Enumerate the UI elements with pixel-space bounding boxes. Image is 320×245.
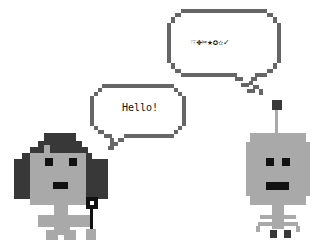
girl-character — [0, 0, 110, 245]
left-foot — [270, 230, 277, 238]
right-claw — [296, 226, 300, 232]
robot-speech-text: ☞✥✂★✪✫✓ — [191, 37, 229, 47]
girl-speech-text: Hello! — [122, 102, 158, 113]
mouth — [53, 182, 68, 189]
right-eye — [282, 158, 290, 166]
face — [30, 153, 86, 205]
left-claw — [256, 226, 260, 232]
right-foot — [284, 230, 291, 238]
robot-character — [240, 0, 320, 245]
left-eye — [266, 158, 274, 166]
hand — [86, 229, 96, 240]
right-arm — [284, 215, 296, 219]
left-foot — [46, 230, 58, 240]
left-arm — [260, 215, 272, 219]
right-foot — [64, 230, 76, 240]
left-eye — [45, 158, 53, 166]
body — [38, 215, 90, 227]
neck — [272, 205, 284, 229]
hair-strand — [44, 145, 50, 153]
mouth — [266, 182, 289, 190]
wand-hole — [90, 201, 94, 205]
neck — [54, 205, 68, 215]
antenna-tip — [272, 100, 282, 110]
hair — [44, 133, 76, 141]
right-eye — [69, 158, 77, 166]
wand-stick — [90, 209, 93, 229]
left-leg — [258, 222, 272, 226]
antenna-stick — [275, 110, 278, 133]
